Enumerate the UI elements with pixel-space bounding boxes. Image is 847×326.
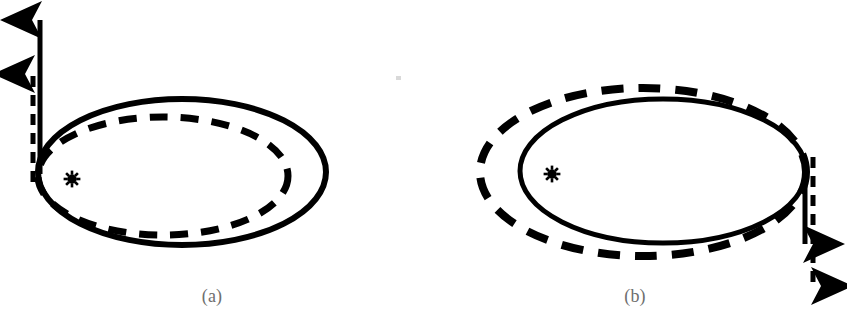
panel-b-caption: (b) [423, 286, 847, 307]
figure-root: (a) [0, 0, 847, 326]
panel-b-solid-orbit [520, 99, 806, 243]
figure-panel-b: (b) [423, 0, 847, 326]
panel-a-sun-icon [64, 171, 81, 188]
figure-panel-a: (a) [0, 0, 424, 326]
panel-b-sun-icon [544, 166, 561, 183]
panel-b-dashed-orbit [480, 88, 806, 256]
panel-b-drawing [423, 0, 847, 326]
panel-a-caption: (a) [0, 286, 424, 307]
scan-artifact-speck [396, 76, 401, 80]
panel-a-drawing [0, 0, 424, 326]
